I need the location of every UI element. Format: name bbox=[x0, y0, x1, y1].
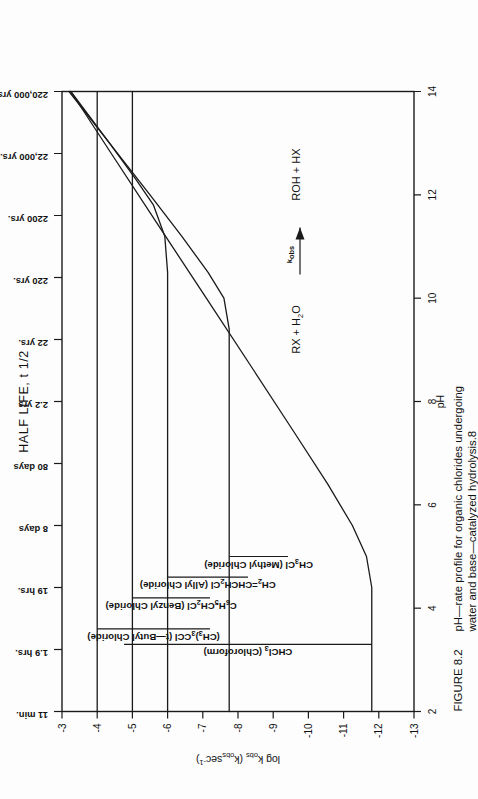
reaction-left-main: RX + H bbox=[290, 317, 302, 353]
series-label-part: Cl (Benzyl Chloride) bbox=[106, 600, 197, 611]
series-label-part: CH bbox=[262, 580, 276, 591]
series-label-part: (CH bbox=[203, 631, 220, 642]
half-life-label: 22 yrs. bbox=[18, 337, 48, 348]
svg-text:log kobs (kobssec-1): log kobs (kobssec-1) bbox=[196, 750, 280, 766]
y-tick-label: -8 bbox=[233, 723, 244, 732]
half-life-label: 8 days bbox=[19, 523, 48, 534]
y-tick-label: -4 bbox=[92, 723, 103, 732]
half-life-axis-title: HALF LIFE, t 1/2 bbox=[17, 350, 31, 453]
y-label-paren-sub: obs bbox=[222, 750, 234, 759]
reaction-left-sub: 2 bbox=[296, 313, 305, 317]
half-life-label: 2200 yrs. bbox=[8, 213, 48, 224]
caption-line-1: pH—rate profile for organic chlorides un… bbox=[452, 385, 464, 631]
x-axis-label: pH bbox=[434, 394, 446, 407]
y-tick-label: -10 bbox=[303, 723, 314, 738]
reaction-left: RX + H2O bbox=[290, 304, 305, 353]
half-life-label: 11 min. bbox=[16, 709, 48, 720]
series-label-part: (Chloroform) bbox=[203, 647, 264, 658]
series-label-part: CH bbox=[201, 600, 215, 611]
y-label-paren-open: (k bbox=[234, 753, 246, 765]
half-life-label: 220 yrs. bbox=[13, 275, 48, 286]
y-tick-label: -6 bbox=[162, 723, 173, 732]
y-tick-label: -9 bbox=[268, 723, 279, 732]
series-labels: (CH3)3CCl (t—Butyl Chloride)C6H5CH2Cl (B… bbox=[87, 556, 313, 658]
series-label: CH2=CHCH2Cl (Allyl Chloride) bbox=[140, 577, 276, 591]
reaction-annotation: RX + H2O kobs ROH + HX bbox=[285, 147, 305, 353]
y-label-tail: sec bbox=[206, 753, 222, 765]
series-label: C6H5CH2Cl (Benzyl Chloride) bbox=[106, 597, 237, 611]
reaction-left-tail: O bbox=[290, 304, 302, 313]
x-tick-label: 14 bbox=[427, 85, 438, 97]
x-tick-label: 4 bbox=[427, 604, 438, 610]
series-curve bbox=[71, 91, 168, 711]
y-tick-label: -11 bbox=[338, 723, 349, 737]
ph-rate-profile-chart: 2468101214 -13-12-11-10-9-8-7-6-5-4-3 11… bbox=[0, 0, 478, 799]
y-label-paren-close: ) bbox=[196, 753, 200, 765]
y-label-lead: log k bbox=[257, 753, 280, 765]
series-label-part: C bbox=[230, 600, 237, 611]
reaction-arrow-head bbox=[296, 227, 305, 239]
y-label-tail-sup: -1 bbox=[199, 757, 206, 766]
series-label-part: CHCl bbox=[269, 647, 292, 658]
figure-page: 2468101214 -13-12-11-10-9-8-7-6-5-4-3 11… bbox=[0, 0, 478, 799]
series-curve bbox=[69, 91, 229, 711]
rate-constant-sub: obs bbox=[287, 245, 296, 258]
y-tick-label: -7 bbox=[197, 723, 208, 732]
y-tick-label: -5 bbox=[127, 723, 138, 732]
plot-frame bbox=[62, 91, 414, 711]
rate-constant-label: kobs bbox=[285, 245, 296, 262]
x-tick-label: 6 bbox=[427, 501, 438, 507]
y-label-lead-sub: obs bbox=[246, 750, 258, 759]
half-life-label: 1.9 hrs. bbox=[15, 647, 48, 658]
series-curve bbox=[71, 91, 372, 711]
x-tick-label: 2 bbox=[427, 708, 438, 714]
y-tick-label: -3 bbox=[57, 723, 68, 732]
half-life-label: 80 days bbox=[14, 461, 48, 472]
x-tick-label: 12 bbox=[427, 188, 438, 200]
y-axis-tick-labels: -13-12-11-10-9-8-7-6-5-4-3 bbox=[57, 723, 420, 738]
half-life-label: 220,000 yrs. bbox=[0, 89, 48, 100]
reaction-right: ROH + HX bbox=[290, 147, 302, 200]
x-tick-label: 10 bbox=[427, 292, 438, 304]
series-label-part: =CHCH bbox=[224, 580, 257, 591]
series-label: CH3Cl (Methyl Chloride) bbox=[204, 556, 313, 570]
half-life-label: 19 hrs. bbox=[18, 585, 48, 596]
series-label-part: CH bbox=[299, 559, 313, 570]
series-label: (CH3)3CCl (t—Butyl Chloride) bbox=[87, 628, 219, 642]
series-label-part: Cl (Methyl Chloride) bbox=[204, 559, 295, 570]
y-tick-label: -12 bbox=[373, 723, 384, 738]
figure-caption: FIGURE 8.2 pH—rate profile for organic c… bbox=[452, 385, 478, 711]
y-axis-label: log kobs (kobssec-1) bbox=[196, 750, 280, 766]
half-life-axis-ticks bbox=[54, 91, 62, 711]
series-label-part: Cl (Allyl Chloride) bbox=[140, 580, 220, 591]
y-tick-label: -13 bbox=[409, 723, 420, 738]
caption-tag: FIGURE 8.2 bbox=[452, 649, 464, 711]
series-label-part: H bbox=[219, 600, 226, 611]
series-label-part: CCl (t—Butyl Chloride) bbox=[87, 631, 191, 642]
caption-line-2: water and base—catalyzed hydrolysis.8 bbox=[466, 430, 478, 632]
figure-stage: 2468101214 -13-12-11-10-9-8-7-6-5-4-3 11… bbox=[0, 0, 478, 799]
series-label: CHCl3 (Chloroform) bbox=[203, 644, 292, 658]
half-life-label: 22,000 yrs. bbox=[0, 151, 48, 162]
series-curves bbox=[69, 91, 372, 711]
x-axis-ticks bbox=[414, 91, 421, 711]
